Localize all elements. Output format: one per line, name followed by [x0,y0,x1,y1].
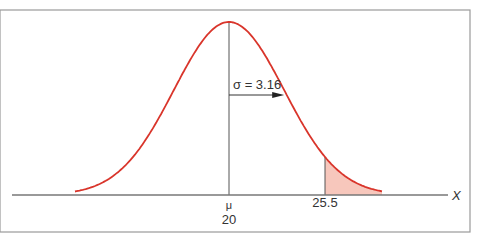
x-axis-label: X [451,188,462,203]
chart-frame [0,10,470,232]
mean-value-label: 20 [222,212,236,227]
normal-distribution-chart: X σ = 3.16 μ 20 25.5 [0,0,487,246]
sigma-label: σ = 3.16 [233,77,281,92]
cutoff-value-label: 25.5 [312,195,337,210]
mean-symbol-label: μ [226,199,232,211]
